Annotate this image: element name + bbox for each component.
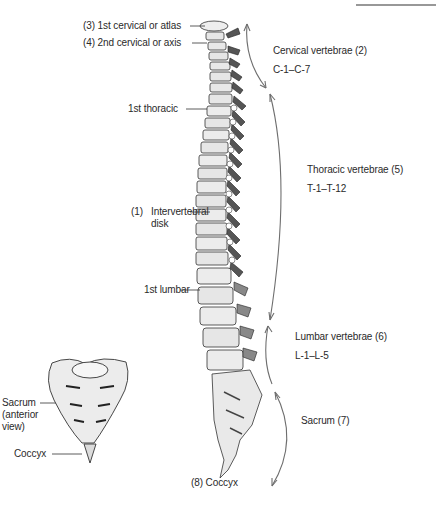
sacrum-arrow xyxy=(272,392,287,486)
label-intervertebral-disk: disk xyxy=(151,218,168,230)
label-cervical-range: C-1–C-7 xyxy=(273,64,310,76)
label-inset-view: view) xyxy=(2,421,25,433)
label-thoracic-range: T-1–T-12 xyxy=(307,183,346,195)
label-cervical-vertebrae: Cervical vertebrae (2) xyxy=(273,45,367,57)
label-first-thoracic: 1st thoracic xyxy=(128,103,178,115)
spine-illustration xyxy=(0,0,438,506)
label-thoracic-vertebrae: Thoracic vertebrae (5) xyxy=(307,164,403,176)
sacrum-inset xyxy=(48,359,128,463)
label-lumbar-range: L-1–L-5 xyxy=(295,350,329,362)
cervical-arrow xyxy=(247,24,266,88)
label-inset-coccyx: Coccyx xyxy=(14,448,46,460)
label-atlas: (3) 1st cervical or atlas xyxy=(83,20,181,32)
lumbar-arrow xyxy=(266,326,272,384)
label-lumbar-vertebrae: Lumbar vertebrae (6) xyxy=(295,331,387,343)
label-inset-sacrum: Sacrum xyxy=(2,397,36,409)
label-inset-anterior: (anterior xyxy=(2,409,38,421)
label-coccyx-main: (8) Coccyx xyxy=(191,477,238,489)
thoracic-arrow xyxy=(270,94,281,320)
label-first-lumbar: 1st lumbar xyxy=(144,284,190,296)
label-sacrum: Sacrum (7) xyxy=(301,415,349,427)
label-intervertebral: Intervertebral xyxy=(151,206,209,218)
label-axis: (4) 2nd cervical or axis xyxy=(83,37,181,49)
label-intervertebral-number: (1) xyxy=(131,206,143,218)
